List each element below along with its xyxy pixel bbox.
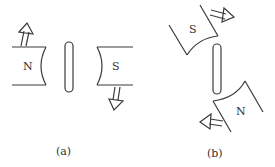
soft-iron-bar-a bbox=[65, 42, 73, 92]
magnet-diagram: N S (a) S N bbox=[0, 0, 275, 167]
caption-a: (a) bbox=[56, 145, 71, 158]
arrow-down-icon bbox=[109, 87, 123, 110]
pole-label-n-b: N bbox=[236, 105, 246, 118]
arrow-up-icon bbox=[19, 23, 33, 46]
magnet-a-south: S bbox=[97, 47, 133, 85]
pole-label-s-b: S bbox=[189, 23, 197, 36]
magnet-b-south: S bbox=[169, 5, 218, 55]
soft-iron-bar-b bbox=[213, 44, 221, 94]
panel-b: S N (b) bbox=[169, 5, 263, 160]
pole-label-s: S bbox=[112, 60, 120, 73]
magnet-a-north: N bbox=[12, 47, 46, 85]
arrow-left-icon bbox=[200, 114, 223, 129]
caption-b: (b) bbox=[207, 147, 223, 160]
panel-a: N S (a) bbox=[12, 23, 133, 158]
arrow-right-icon bbox=[210, 8, 234, 22]
pole-label-n: N bbox=[23, 60, 33, 73]
